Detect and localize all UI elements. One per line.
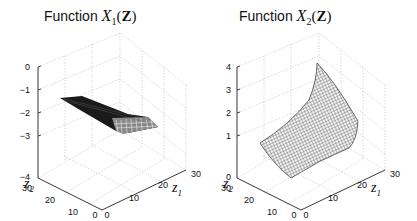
- svg-text:10: 10: [129, 193, 139, 203]
- svg-text:10: 10: [267, 207, 277, 217]
- z1-axis-ticks: 0 10 20 30: [104, 169, 201, 220]
- svg-text:20: 20: [244, 195, 254, 205]
- svg-text:30: 30: [191, 169, 201, 179]
- svg-text:0: 0: [291, 210, 296, 220]
- svg-text:20: 20: [357, 180, 367, 190]
- svg-text:10: 10: [68, 207, 78, 217]
- svg-text:0: 0: [92, 210, 97, 220]
- surface-plot-x2: Function X2(Z): [209, 0, 417, 221]
- plot-canvas: 4 3 2 1 0 30 20 10 0 0 10 20 30 z2 z1: [209, 0, 417, 221]
- svg-text:2: 2: [226, 108, 231, 118]
- svg-text:−3: −3: [20, 131, 30, 141]
- surface-plot-x1: Function X1(Z): [0, 0, 208, 221]
- plot-canvas: 0 −1 −2 −3 −4 30 20 10 0 0 10 20 30 z2: [0, 0, 208, 221]
- svg-text:z1: z1: [171, 180, 182, 198]
- svg-text:0: 0: [25, 62, 30, 72]
- svg-text:3: 3: [226, 85, 231, 95]
- svg-text:1: 1: [226, 131, 231, 141]
- svg-text:10: 10: [328, 193, 338, 203]
- svg-text:4: 4: [226, 62, 231, 72]
- z-axis-ticks: 4 3 2 1 0: [226, 62, 231, 182]
- z-axis-ticks: 0 −1 −2 −3 −4: [20, 62, 30, 182]
- z1-axis-ticks: 0 10 20 30: [303, 169, 400, 220]
- surface-mesh: [60, 96, 158, 134]
- surface-mesh: [260, 63, 358, 178]
- svg-text:0: 0: [104, 210, 109, 220]
- svg-text:30: 30: [390, 169, 400, 179]
- svg-text:−2: −2: [20, 108, 30, 118]
- svg-text:20: 20: [158, 180, 168, 190]
- svg-text:20: 20: [45, 195, 55, 205]
- svg-text:z1: z1: [370, 180, 381, 198]
- svg-text:−1: −1: [20, 85, 30, 95]
- svg-text:0: 0: [303, 210, 308, 220]
